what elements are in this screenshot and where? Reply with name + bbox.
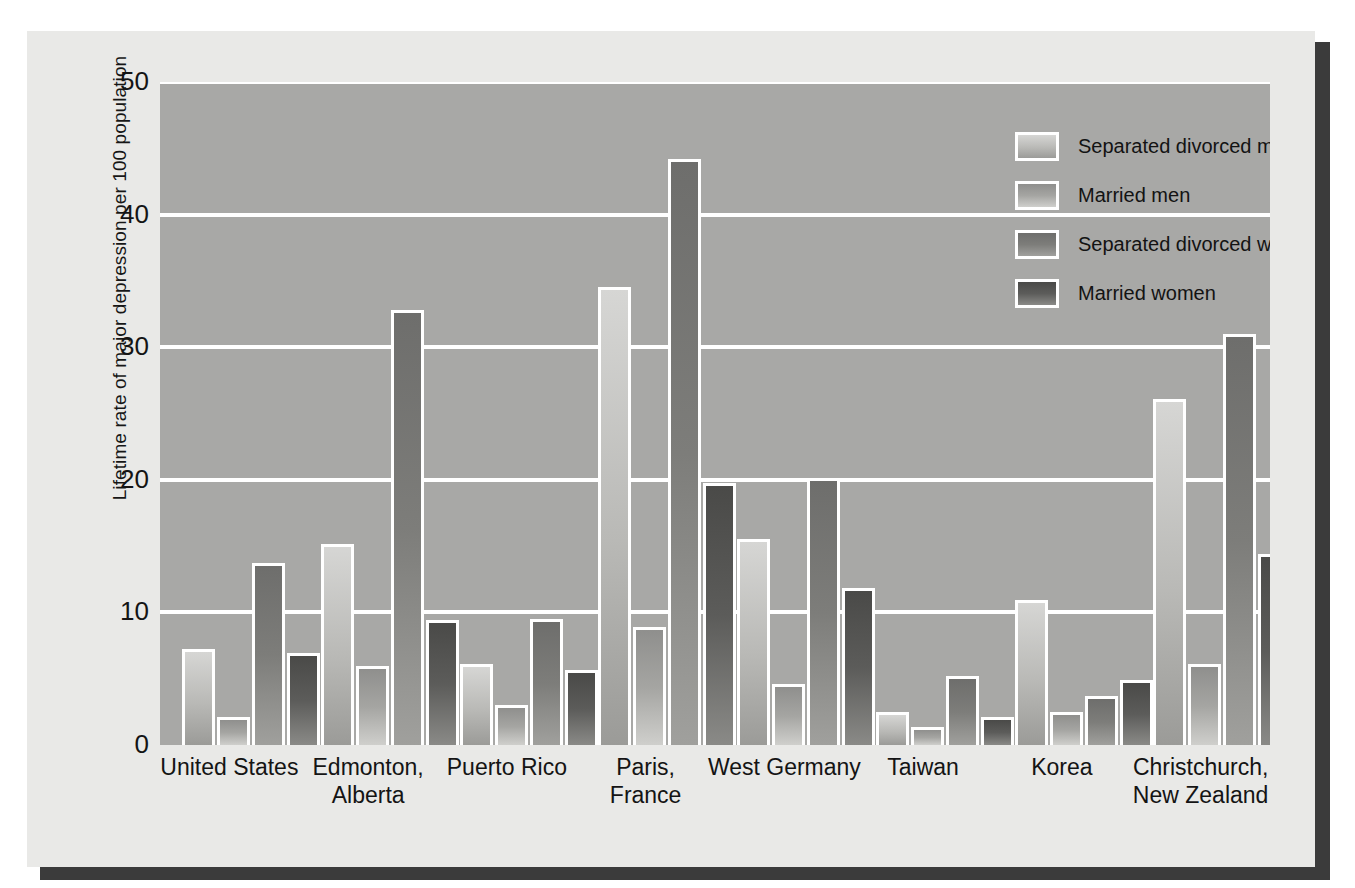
legend-swatch <box>1015 132 1059 161</box>
y-tick-label: 40 <box>97 201 149 227</box>
legend-item[interactable]: Married women <box>1015 272 1265 314</box>
legend-label: Separated divorced women <box>1078 233 1270 256</box>
bar <box>737 539 770 745</box>
x-tick-label: West Germany <box>705 753 864 781</box>
bar <box>1085 696 1118 745</box>
x-tick-label: Paris, France <box>566 753 725 809</box>
bar <box>911 727 944 745</box>
bar <box>321 544 354 745</box>
chart-card: Lifetime rate of major depression per 10… <box>27 31 1315 867</box>
bar <box>252 563 285 745</box>
bar <box>1258 554 1270 745</box>
bar <box>772 684 805 745</box>
legend-label: Married men <box>1078 184 1190 207</box>
bar <box>807 478 840 745</box>
bar <box>598 287 631 745</box>
x-tick-label: Puerto Rico <box>428 753 587 781</box>
legend-swatch <box>1015 279 1059 308</box>
legend-swatch <box>1015 181 1059 210</box>
bar <box>1223 334 1256 745</box>
x-tick-label: Christchurch, New Zealand <box>1121 753 1280 809</box>
bar <box>460 664 493 745</box>
legend-label: Separated divorced men <box>1078 135 1270 158</box>
bar <box>1153 399 1186 745</box>
bar <box>356 666 389 745</box>
legend-swatch <box>1015 230 1059 259</box>
bar <box>1188 664 1221 745</box>
legend-item[interactable]: Separated divorced women <box>1015 223 1265 265</box>
x-tick-label: United States <box>150 753 309 781</box>
y-tick-label: 30 <box>97 333 149 359</box>
x-tick-label: Korea <box>983 753 1142 781</box>
bar-group <box>576 82 715 745</box>
bar <box>217 717 250 745</box>
legend-item[interactable]: Separated divorced men <box>1015 125 1265 167</box>
legend-item[interactable]: Married men <box>1015 174 1265 216</box>
bar <box>1015 600 1048 745</box>
x-axis-tick-labels: United StatesEdmonton, AlbertaPuerto Ric… <box>160 753 1270 843</box>
bar <box>495 705 528 745</box>
bar <box>946 676 979 745</box>
bar-group <box>438 82 577 745</box>
bar <box>668 159 701 745</box>
x-tick-label: Edmonton, Alberta <box>289 753 448 809</box>
bar-group <box>160 82 299 745</box>
bar-group <box>299 82 438 745</box>
bar <box>530 619 563 745</box>
bar <box>633 627 666 745</box>
bar-group <box>715 82 854 745</box>
y-tick-label: 10 <box>97 598 149 624</box>
chart-legend: Separated divorced menMarried menSeparat… <box>1015 125 1265 321</box>
bar <box>391 310 424 745</box>
y-tick-label: 20 <box>97 466 149 492</box>
bar <box>182 649 215 745</box>
bar <box>1050 712 1083 745</box>
bar <box>876 712 909 745</box>
y-tick-label: 50 <box>97 68 149 94</box>
plot-area: Separated divorced menMarried menSeparat… <box>160 82 1270 745</box>
chart-figure: Lifetime rate of major depression per 10… <box>0 0 1355 888</box>
y-axis-tick-labels: 01020304050 <box>87 82 149 745</box>
bar-group <box>854 82 993 745</box>
legend-label: Married women <box>1078 282 1216 305</box>
y-tick-label: 0 <box>97 731 149 757</box>
x-tick-label: Taiwan <box>844 753 1003 781</box>
